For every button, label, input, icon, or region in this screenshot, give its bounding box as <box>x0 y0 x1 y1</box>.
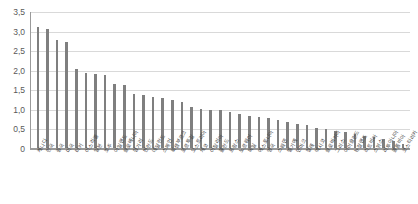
x-axis-label-slot: 에스토니아 <box>254 150 264 204</box>
bar-chart: 3,53,02,52,01,51,00,50 캐나다한국중국미국터키이스라엘일본… <box>0 0 418 204</box>
x-axis-label-slot: 아일랜드 <box>110 150 120 204</box>
x-axis-label-slot: 콜롬비아 <box>389 150 399 204</box>
y-axis-tick-label: 2,0 <box>0 67 25 75</box>
x-axis-label-slot: 프랑스 <box>225 150 235 204</box>
bar-slot <box>52 12 62 148</box>
bar-slot <box>264 12 274 148</box>
bar-slot <box>244 12 254 148</box>
bar-slot <box>331 12 341 148</box>
bar-slot <box>43 12 53 148</box>
x-axis-label-slot: 슬로베니아 <box>119 150 129 204</box>
bar-slot <box>62 12 72 148</box>
x-axis-label-slot: 네덜란드 <box>148 150 158 204</box>
x-axis-label-slot: 이스라엘 <box>81 150 91 204</box>
x-axis-label-slot: 스페인 <box>158 150 168 204</box>
x-axis-label-slot: 스위스 <box>369 150 379 204</box>
bar-slot <box>139 12 149 148</box>
y-axis-tick-label: 3,5 <box>0 8 25 16</box>
x-axis-label-slot: 뉴질랜드 <box>350 150 360 204</box>
x-axis-label-slot: 코스타리카 <box>398 150 408 204</box>
x-axis-label-slot: 리투아니아 <box>379 150 389 204</box>
x-axis-label-slot: 체코 <box>196 150 206 204</box>
x-axis-label-slot: 이탈리아 <box>206 150 216 204</box>
x-axis-label-slot: 한국 <box>43 150 53 204</box>
x-axis-label-slot: 라트비아 <box>360 150 370 204</box>
x-axis-label-slot: 포르투갈 <box>177 150 187 204</box>
bar-slot <box>168 12 178 148</box>
bar-slot <box>206 12 216 148</box>
x-axis-label-slot: 일본 <box>91 150 101 204</box>
x-axis-label-slot: 오스트리아 <box>187 150 197 204</box>
bar <box>104 75 107 148</box>
bar-slot <box>254 12 264 148</box>
bar <box>46 29 49 148</box>
x-axis-label-slot: 스웨덴 <box>273 150 283 204</box>
x-axis-label-slot: 독일 <box>244 150 254 204</box>
bar <box>56 40 59 148</box>
bar-slot <box>100 12 110 148</box>
bar-slot <box>398 12 408 148</box>
y-axis-tick-label: 2,5 <box>0 47 25 55</box>
x-axis-label-slot: 벨기에 <box>283 150 293 204</box>
bar-slot <box>389 12 399 148</box>
x-axis-label-slot: 노르웨이 <box>235 150 245 204</box>
y-axis-tick-label: 3,0 <box>0 28 25 36</box>
bar-slot <box>292 12 302 148</box>
x-axis-label-slot: 미국 <box>62 150 72 204</box>
x-axis-label-slot: 덴마크 <box>292 150 302 204</box>
bar <box>65 42 68 148</box>
bar-slot <box>369 12 379 148</box>
x-axis-label-slot: 그리스 <box>331 150 341 204</box>
bar <box>209 110 212 148</box>
bar-slot <box>110 12 120 148</box>
bar-slot <box>148 12 158 148</box>
bar-series <box>30 12 410 149</box>
x-axis-tick-labels: 캐나다한국중국미국터키이스라엘일본호주아일랜드슬로베니아헝가리핀란드네덜란드스페… <box>30 150 410 204</box>
bar <box>113 84 116 148</box>
bar-slot <box>302 12 312 148</box>
y-axis-tick-label: 0 <box>0 145 25 153</box>
bar-slot <box>81 12 91 148</box>
bar-slot <box>341 12 351 148</box>
bar-slot <box>216 12 226 148</box>
bar-slot <box>119 12 129 148</box>
x-axis-label-slot: 호주 <box>100 150 110 204</box>
bar-slot <box>225 12 235 148</box>
bar-slot <box>312 12 322 148</box>
x-axis-label-slot: 아이슬란드 <box>341 150 351 204</box>
bar-slot <box>283 12 293 148</box>
y-axis-tick-labels: 3,53,02,52,01,51,00,50 <box>0 12 27 149</box>
bar <box>85 73 88 148</box>
bar-slot <box>91 12 101 148</box>
x-axis-label-slot: 슬로바키아 <box>321 150 331 204</box>
bar-slot <box>71 12 81 148</box>
bar-slot <box>379 12 389 148</box>
x-axis-label-slot: 룩셈부르크 <box>168 150 178 204</box>
y-axis-tick-label: 0,5 <box>0 125 25 133</box>
x-axis-label-slot: 터키 <box>71 150 81 204</box>
x-axis-label-slot: 헝가리 <box>129 150 139 204</box>
x-axis-label-slot: 캐나다 <box>33 150 43 204</box>
x-axis-label-slot: 중국 <box>52 150 62 204</box>
x-axis-label-slot: 핀란드 <box>139 150 149 204</box>
bar-slot <box>196 12 206 148</box>
bar <box>37 27 40 148</box>
bar-slot <box>321 12 331 148</box>
x-axis-label-slot: 영국 <box>264 150 274 204</box>
bar-slot <box>158 12 168 148</box>
bar-slot <box>360 12 370 148</box>
plot-area <box>30 12 410 149</box>
bar-slot <box>273 12 283 148</box>
bar <box>75 69 78 148</box>
y-axis-tick-label: 1,0 <box>0 106 25 114</box>
bar-slot <box>33 12 43 148</box>
x-axis-label-slot: 멕시코 <box>312 150 322 204</box>
bar-slot <box>235 12 245 148</box>
x-axis-label-slot: 칠레 <box>302 150 312 204</box>
x-axis-label-slot: 폴란드 <box>216 150 226 204</box>
y-axis-tick-label: 1,5 <box>0 86 25 94</box>
bar-slot <box>187 12 197 148</box>
